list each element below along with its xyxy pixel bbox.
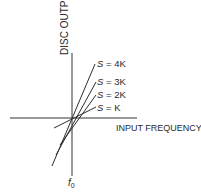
center-frequency-label: f0	[68, 177, 75, 189]
line-s-2k	[60, 95, 96, 145]
label-s-3k: S = 3K	[97, 76, 126, 87]
label-s-4k: S = 4K	[97, 58, 126, 69]
y-axis-label: DISC OUTPUT	[59, 0, 70, 55]
x-axis-label: INPUT FREQUENCY	[116, 123, 201, 133]
label-s-k: S = K	[97, 102, 121, 113]
discriminator-sensitivity-diagram: DISC OUTPUT INPUT FREQUENCY S = 4K S = 3…	[0, 0, 201, 195]
label-s-2k: S = 2K	[97, 89, 126, 100]
